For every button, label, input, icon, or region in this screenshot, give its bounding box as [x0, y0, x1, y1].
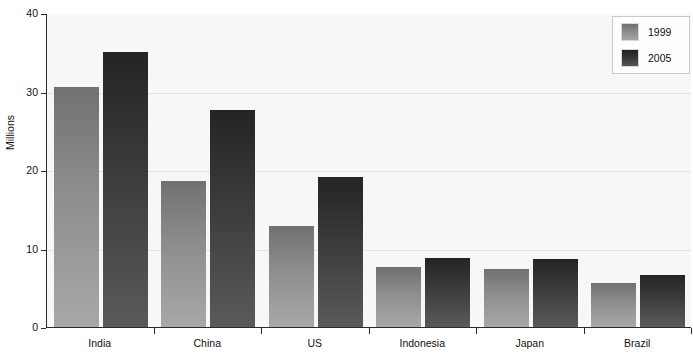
bar-us-1999: [269, 226, 314, 327]
y-axis-tick-label: 0: [4, 321, 38, 333]
bar-india-2005: [103, 52, 148, 327]
legend: 1999 2005: [612, 16, 690, 74]
legend-item-1999[interactable]: 1999: [621, 23, 671, 41]
y-axis-tick-label: 30: [4, 86, 38, 98]
x-axis-label-india: India: [46, 337, 154, 349]
y-axis-tick-label: 40: [4, 7, 38, 19]
bar-chart: Millions 010203040 IndiaChinaUSIndonesia…: [0, 0, 693, 364]
x-axis-tick-mark: [476, 328, 477, 334]
bar-japan-2005: [533, 259, 578, 327]
x-axis-tick-mark: [261, 328, 262, 334]
bar-indonesia-1999: [376, 267, 421, 327]
bar-indonesia-2005: [425, 258, 470, 327]
legend-item-2005[interactable]: 2005: [621, 49, 671, 67]
x-axis-label-us: US: [261, 337, 369, 349]
x-axis-tick-mark: [154, 328, 155, 334]
x-axis-tick-mark: [584, 328, 585, 334]
bar-brazil-1999: [591, 283, 636, 327]
plot-inner: [47, 14, 691, 327]
y-axis-tick-mark: [41, 328, 46, 329]
bar-china-1999: [161, 181, 206, 327]
legend-swatch-2005-icon: [621, 49, 639, 67]
bar-us-2005: [318, 177, 363, 327]
legend-swatch-1999-icon: [621, 23, 639, 41]
bar-brazil-2005: [640, 275, 685, 327]
x-axis-tick-mark: [369, 328, 370, 334]
x-axis-label-china: China: [154, 337, 262, 349]
x-axis-label-indonesia: Indonesia: [369, 337, 477, 349]
bar-japan-1999: [484, 269, 529, 327]
bar-india-1999: [54, 87, 99, 327]
bar-china-2005: [210, 110, 255, 327]
y-axis-title: Millions: [4, 115, 16, 150]
y-axis-tick-label: 20: [4, 164, 38, 176]
legend-label-2005: 2005: [648, 52, 671, 64]
x-axis-tick-mark: [691, 328, 692, 334]
x-axis-label-brazil: Brazil: [584, 337, 692, 349]
legend-label-1999: 1999: [648, 26, 671, 38]
plot-area: [46, 14, 691, 328]
y-axis-tick-label: 10: [4, 243, 38, 255]
x-axis-label-japan: Japan: [476, 337, 584, 349]
